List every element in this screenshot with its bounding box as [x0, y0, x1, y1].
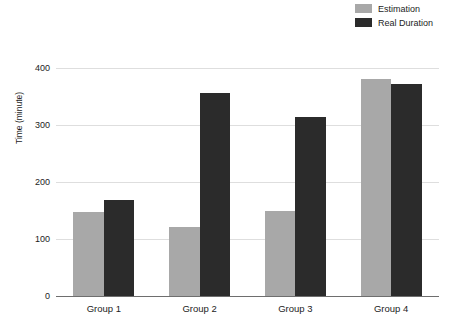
legend-item-real-duration: Real Duration: [355, 17, 433, 28]
x-tick-group-3: Group 3: [278, 303, 312, 314]
y-tick-100: 100: [16, 234, 50, 244]
y-tick-400: 400: [16, 63, 50, 73]
bar-chart: Estimation Real Duration Time (minute) 0…: [0, 0, 451, 334]
x-tick-group-2: Group 2: [182, 303, 216, 314]
plot-area: [56, 57, 439, 296]
legend-label-real-duration: Real Duration: [378, 18, 433, 28]
legend-swatch-real-duration: [355, 18, 372, 27]
chart-legend: Estimation Real Duration: [355, 3, 433, 28]
y-axis-tick-labels: 0100200300400: [14, 57, 50, 296]
bar-estimation-group-3: [265, 211, 296, 296]
legend-item-estimation: Estimation: [355, 3, 433, 14]
bar-real-duration-group-1: [104, 200, 135, 296]
legend-label-estimation: Estimation: [378, 4, 420, 14]
x-tick-group-4: Group 4: [374, 303, 408, 314]
gridline-0: [56, 296, 439, 297]
bar-real-duration-group-2: [200, 93, 231, 296]
bar-estimation-group-4: [361, 79, 392, 296]
x-axis-tick-labels: Group 1Group 2Group 3Group 4: [56, 303, 439, 319]
legend-swatch-estimation: [355, 4, 372, 13]
y-tick-300: 300: [16, 120, 50, 130]
bar-series-container: [56, 57, 439, 296]
bar-real-duration-group-4: [391, 84, 422, 296]
bar-estimation-group-2: [169, 227, 200, 296]
y-tick-0: 0: [16, 291, 50, 301]
bar-estimation-group-1: [73, 212, 104, 296]
bar-real-duration-group-3: [295, 117, 326, 296]
x-tick-group-1: Group 1: [87, 303, 121, 314]
y-tick-200: 200: [16, 177, 50, 187]
